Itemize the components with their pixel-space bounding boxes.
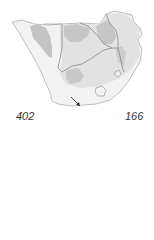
left-value-label: 402 [16,110,34,122]
right-value-label: 166 [125,110,143,122]
